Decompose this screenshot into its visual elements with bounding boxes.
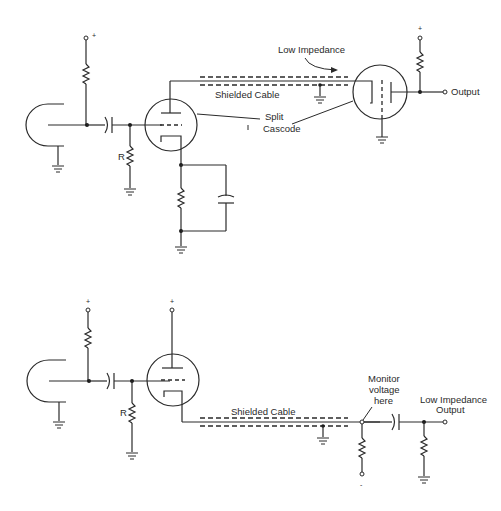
monitor-label-1: Monitor bbox=[368, 373, 400, 384]
minus-terminal bbox=[360, 472, 364, 476]
monitor-terminal bbox=[360, 420, 364, 424]
ground-icon bbox=[52, 166, 64, 172]
supply-label: + bbox=[170, 298, 174, 305]
resistor-icon bbox=[85, 328, 91, 348]
resistor-r-label: R bbox=[120, 407, 127, 418]
supply-label: + bbox=[418, 25, 422, 32]
split-label: Split bbox=[265, 111, 284, 122]
ground-icon bbox=[376, 137, 388, 143]
cathode-follower-tube-icon bbox=[147, 354, 199, 422]
supply-label: + bbox=[86, 298, 90, 305]
low-impedance-label: Low Impedance bbox=[278, 44, 345, 55]
resistor-icon bbox=[127, 146, 133, 166]
resistor-icon bbox=[129, 403, 135, 423]
monitor-label-3: here bbox=[374, 395, 393, 406]
monitor-label-2: voltage bbox=[369, 384, 400, 395]
supply-terminal-icon bbox=[84, 36, 88, 40]
output-terminal bbox=[443, 420, 447, 424]
output-terminal bbox=[443, 90, 447, 94]
resistor-icon bbox=[359, 438, 365, 458]
supply-label: + bbox=[92, 32, 96, 39]
bypass-capacitor-icon bbox=[218, 195, 234, 203]
ground-icon bbox=[314, 97, 326, 103]
resistor-r-label: R bbox=[118, 151, 125, 162]
shielded-cable-label: Shielded Cable bbox=[215, 89, 279, 100]
ground-icon bbox=[53, 422, 65, 428]
shielded-cable-label: Shielded Cable bbox=[231, 406, 295, 417]
output-label-2: Output bbox=[436, 404, 465, 415]
cascode-label: Cascode bbox=[263, 123, 301, 134]
supply-terminal-icon bbox=[170, 308, 174, 312]
arrow-icon bbox=[305, 58, 338, 73]
resistor-icon bbox=[83, 64, 89, 84]
resistor-icon bbox=[421, 436, 427, 456]
ground-icon bbox=[317, 438, 329, 444]
resistor-icon bbox=[417, 52, 423, 72]
ground-icon bbox=[124, 189, 136, 195]
ground-icon bbox=[175, 247, 187, 253]
minus-label: - bbox=[360, 481, 363, 488]
input-tube-icon bbox=[27, 360, 89, 421]
ground-icon bbox=[418, 477, 430, 483]
capacitor-icon bbox=[107, 373, 114, 389]
capacitor-icon bbox=[392, 414, 399, 430]
capacitor-icon bbox=[105, 117, 112, 133]
output-label: Output bbox=[451, 86, 480, 97]
supply-terminal-icon bbox=[418, 36, 422, 40]
resistor-icon bbox=[178, 188, 184, 208]
supply-terminal-icon bbox=[86, 308, 90, 312]
bottom-circuit: + R + bbox=[27, 298, 487, 488]
ground-icon bbox=[126, 453, 138, 459]
cascode-lower-tube-icon bbox=[145, 99, 197, 165]
schematic-canvas: + R bbox=[0, 0, 501, 511]
input-tube-icon bbox=[26, 104, 87, 165]
top-circuit: + R bbox=[26, 25, 480, 253]
